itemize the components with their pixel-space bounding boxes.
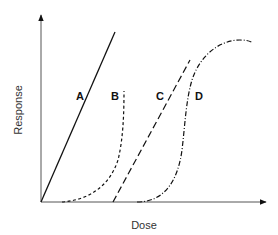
curve-d	[137, 40, 253, 202]
curve-a	[41, 32, 115, 202]
curve-b-label: B	[111, 90, 119, 102]
dose-response-chart: A B C D Response Dose	[0, 0, 278, 235]
x-axis-label: Dose	[131, 219, 157, 231]
curve-a-label: A	[76, 90, 84, 102]
curve-b	[62, 91, 124, 202]
curve-c-label: C	[156, 90, 164, 102]
curve-c	[113, 60, 190, 202]
curve-d-label: D	[195, 90, 203, 102]
y-axis-label: Response	[12, 85, 24, 135]
